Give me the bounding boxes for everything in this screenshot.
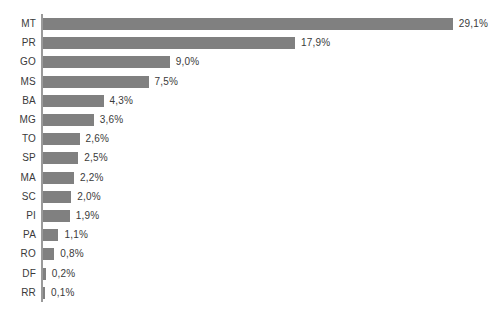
bar-value-label: 3,6% (100, 110, 124, 130)
bar-row: MT29,1% (0, 14, 497, 34)
category-label: MT (0, 14, 36, 34)
category-label: MA (0, 168, 36, 188)
bar-row: PA1,1% (0, 225, 497, 245)
bar-value-label: 29,1% (459, 14, 488, 34)
bar-row: BA4,3% (0, 91, 497, 111)
bar (43, 210, 70, 222)
bar (43, 287, 45, 299)
bar-row: MA2,2% (0, 168, 497, 188)
bar-value-label: 0,8% (60, 244, 84, 264)
bar (43, 76, 149, 88)
bar (43, 56, 170, 68)
bar-value-label: 17,9% (301, 33, 330, 53)
bar-row: SC2,0% (0, 187, 497, 207)
bar (43, 95, 104, 107)
category-label: PI (0, 206, 36, 226)
category-label: SC (0, 187, 36, 207)
bar (43, 133, 80, 145)
bar-row: DF0,2% (0, 264, 497, 284)
bar-row: RO0,8% (0, 244, 497, 264)
category-label: GO (0, 52, 36, 72)
bar-value-label: 2,2% (80, 168, 104, 188)
category-label: SP (0, 148, 36, 168)
category-label: PA (0, 225, 36, 245)
bar-chart: MT29,1%PR17,9%GO9,0%MS7,5%BA4,3%MG3,6%TO… (0, 0, 497, 330)
category-label: MS (0, 72, 36, 92)
bar (43, 114, 94, 126)
bar-value-label: 4,3% (110, 91, 134, 111)
bar-value-label: 7,5% (155, 72, 179, 92)
bar-row: RR0,1% (0, 283, 497, 303)
category-label: DF (0, 264, 36, 284)
bar (43, 172, 74, 184)
bar-row: TO2,6% (0, 129, 497, 149)
category-label: BA (0, 91, 36, 111)
bar-row: PR17,9% (0, 33, 497, 53)
bar-value-label: 0,2% (52, 264, 76, 284)
bar (43, 268, 46, 280)
bar-row: SP2,5% (0, 148, 497, 168)
bar (43, 191, 71, 203)
bar-value-label: 2,6% (86, 129, 110, 149)
bar-row: MS7,5% (0, 72, 497, 92)
bar (43, 37, 295, 49)
bar (43, 18, 453, 30)
bar-value-label: 1,9% (76, 206, 100, 226)
bar-value-label: 0,1% (51, 283, 75, 303)
category-label: RO (0, 244, 36, 264)
plot-area: MT29,1%PR17,9%GO9,0%MS7,5%BA4,3%MG3,6%TO… (0, 0, 497, 330)
bar-row: GO9,0% (0, 52, 497, 72)
bar-row: PI1,9% (0, 206, 497, 226)
bar-value-label: 1,1% (64, 225, 88, 245)
bar-row: MG3,6% (0, 110, 497, 130)
bar (43, 152, 78, 164)
category-label: MG (0, 110, 36, 130)
category-label: PR (0, 33, 36, 53)
bar-value-label: 9,0% (176, 52, 200, 72)
bar-value-label: 2,0% (77, 187, 101, 207)
category-label: RR (0, 283, 36, 303)
category-label: TO (0, 129, 36, 149)
bar (43, 229, 58, 241)
bar (43, 248, 54, 260)
bar-value-label: 2,5% (84, 148, 108, 168)
